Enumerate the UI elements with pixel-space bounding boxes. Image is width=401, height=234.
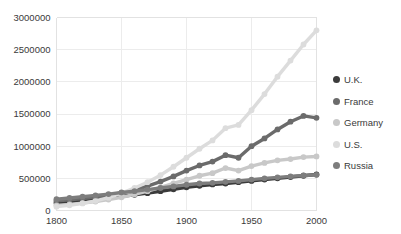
x-axis-tick-label: 1900 bbox=[176, 215, 197, 226]
data-point-marker bbox=[171, 174, 177, 180]
chart-legend: U.K.FranceGermanyU.S.Russia bbox=[333, 69, 401, 177]
line-chart: 0500000100000015000002000000250000030000… bbox=[0, 0, 401, 234]
data-point-marker bbox=[158, 179, 164, 185]
y-axis-tick-label: 500000 bbox=[19, 173, 51, 184]
legend-item-u-k[interactable]: U.K. bbox=[333, 69, 401, 91]
data-point-marker bbox=[223, 125, 229, 131]
data-point-marker bbox=[197, 163, 203, 169]
data-point-marker bbox=[184, 177, 190, 183]
data-point-marker bbox=[249, 107, 255, 113]
x-axis-tick-label: 1950 bbox=[241, 215, 262, 226]
data-point-marker bbox=[275, 127, 281, 133]
legend-item-u-s[interactable]: U.S. bbox=[333, 134, 401, 156]
data-point-marker bbox=[288, 58, 294, 64]
legend-item-label: U.K. bbox=[344, 75, 362, 85]
data-point-marker bbox=[301, 42, 307, 48]
data-point-marker bbox=[262, 160, 268, 166]
data-point-marker bbox=[249, 143, 255, 149]
x-axis-tick-label: 1800 bbox=[46, 215, 67, 226]
data-point-marker bbox=[54, 204, 60, 210]
data-point-marker bbox=[288, 119, 294, 125]
legend-item-france[interactable]: France bbox=[333, 91, 401, 113]
data-point-marker bbox=[158, 172, 164, 178]
data-point-marker bbox=[236, 168, 242, 174]
y-axis-tick-label: 1500000 bbox=[14, 108, 51, 119]
x-axis-ticks: 18001850190019502000 bbox=[46, 215, 327, 226]
data-point-marker bbox=[106, 191, 112, 197]
data-point-marker bbox=[132, 188, 138, 194]
y-axis-ticks: 0500000100000015000002000000250000030000… bbox=[14, 12, 51, 216]
legend-marker-icon bbox=[333, 98, 340, 105]
data-point-marker bbox=[145, 179, 151, 185]
data-point-marker bbox=[80, 194, 86, 200]
data-point-marker bbox=[262, 136, 268, 142]
data-point-marker bbox=[301, 154, 307, 160]
data-point-marker bbox=[93, 198, 99, 204]
data-point-marker bbox=[223, 165, 229, 171]
data-point-marker bbox=[236, 155, 242, 161]
data-point-marker bbox=[262, 175, 268, 181]
data-point-marker bbox=[197, 173, 203, 179]
data-point-marker bbox=[223, 179, 229, 185]
data-point-marker bbox=[223, 152, 229, 158]
legend-item-label: Germany bbox=[344, 118, 383, 128]
legend-marker-icon bbox=[333, 76, 340, 83]
legend-marker-icon bbox=[333, 141, 340, 148]
y-axis-tick-label: 2500000 bbox=[14, 44, 51, 55]
data-point-marker bbox=[184, 168, 190, 174]
data-point-marker bbox=[158, 185, 164, 191]
data-point-marker bbox=[249, 163, 255, 169]
legend-item-label: France bbox=[344, 97, 374, 107]
y-axis-tick-label: 3000000 bbox=[14, 12, 51, 23]
data-point-marker bbox=[171, 183, 177, 189]
data-point-marker bbox=[236, 178, 242, 184]
data-point-marker bbox=[197, 181, 203, 187]
data-point-marker bbox=[184, 155, 190, 161]
data-point-marker bbox=[288, 174, 294, 180]
legend-marker-icon bbox=[333, 162, 340, 169]
data-point-marker bbox=[301, 113, 307, 119]
data-point-marker bbox=[236, 122, 242, 128]
data-point-marker bbox=[275, 157, 281, 163]
data-point-marker bbox=[145, 187, 151, 193]
data-point-marker bbox=[301, 173, 307, 179]
data-point-marker bbox=[262, 91, 268, 97]
legend-item-germany[interactable]: Germany bbox=[333, 112, 401, 134]
legend-item-label: U.S. bbox=[344, 140, 362, 150]
data-point-marker bbox=[210, 137, 216, 143]
data-point-marker bbox=[54, 196, 60, 202]
data-point-marker bbox=[197, 146, 203, 152]
data-point-marker bbox=[93, 192, 99, 198]
legend-item-label: Russia bbox=[344, 161, 373, 171]
data-point-marker bbox=[275, 74, 281, 80]
legend-marker-icon bbox=[333, 119, 340, 126]
data-point-marker bbox=[314, 172, 320, 178]
y-axis-tick-label: 2000000 bbox=[14, 76, 51, 87]
data-point-marker bbox=[275, 174, 281, 180]
data-point-marker bbox=[210, 159, 216, 165]
y-axis-tick-label: 1000000 bbox=[14, 141, 51, 152]
x-axis-tick-label: 1850 bbox=[111, 215, 132, 226]
data-point-marker bbox=[314, 27, 320, 33]
data-point-marker bbox=[249, 177, 255, 183]
data-point-marker bbox=[314, 154, 320, 160]
data-point-marker bbox=[288, 156, 294, 162]
data-point-marker bbox=[171, 164, 177, 170]
data-point-marker bbox=[210, 180, 216, 186]
data-point-marker bbox=[67, 202, 73, 208]
data-point-marker bbox=[67, 195, 73, 201]
data-point-marker bbox=[314, 115, 320, 121]
data-point-marker bbox=[80, 201, 86, 207]
legend-item-russia[interactable]: Russia bbox=[333, 155, 401, 177]
data-point-marker bbox=[119, 190, 125, 196]
x-axis-tick-label: 2000 bbox=[306, 215, 327, 226]
data-point-marker bbox=[210, 170, 216, 176]
data-point-marker bbox=[184, 182, 190, 188]
